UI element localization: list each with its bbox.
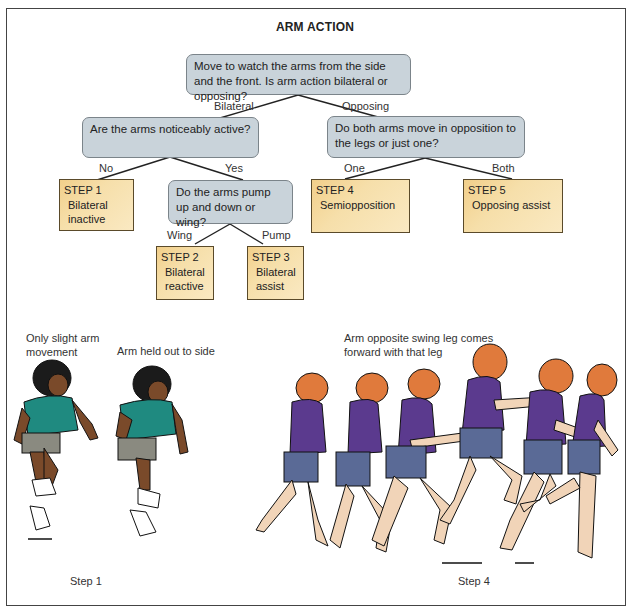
- child-figure-slight-movement: [14, 360, 98, 539]
- runner-3: [372, 369, 472, 546]
- runner-1: [256, 373, 328, 546]
- child-figure-arm-held-out: [116, 366, 188, 536]
- illustrations: [0, 0, 630, 613]
- runner-sequence: [256, 344, 618, 563]
